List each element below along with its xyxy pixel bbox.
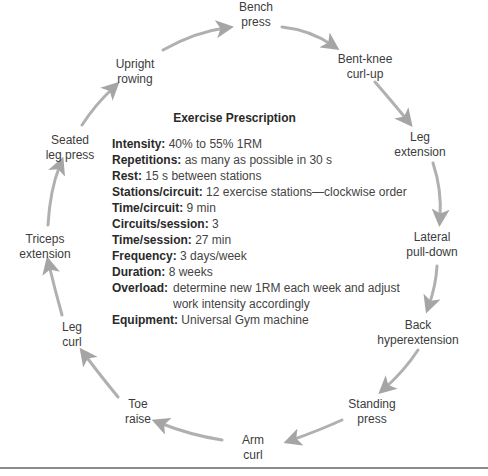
station-label: Arm [242,433,264,448]
row-label: Time/circuit: [112,201,183,215]
prescription-row-time-session: Time/session: 27 min [112,232,442,248]
station-toe-raise: Toe raise [125,397,151,427]
row-label: Time/session: [112,233,192,247]
station-label: Toe [125,397,151,412]
station-label: Upright [116,57,155,72]
station-label: raise [125,412,151,427]
station-label: press [239,15,273,30]
station-standing-press: Standing press [348,397,395,427]
station-leg-curl: Leg curl [62,320,82,350]
arrow-back-to-standing [385,350,418,388]
arrow-arm-to-toe [160,423,222,440]
prescription-row-duration: Duration: 8 weeks [112,264,442,280]
station-label: rowing [116,72,155,87]
station-label: Standing [348,397,395,412]
row-value: 8 weeks [169,265,213,279]
row-value: 15 s between stations [145,169,261,183]
station-label: press [348,412,395,427]
row-label: Repetitions: [112,153,181,167]
arrow-legcurl-to-triceps [49,265,62,315]
row-label: Circuits/session: [112,217,209,231]
prescription-row-circuits-session: Circuits/session: 3 [112,216,442,232]
arrow-toe-to-legcurl [85,355,118,397]
prescription-row-stations: Stations/circuit: 12 exercise stations—c… [112,184,442,200]
station-label: curl [242,448,264,463]
row-value: 3 [212,217,219,231]
prescription-row-time-circuit: Time/circuit: 9 min [112,200,442,216]
prescription-title: Exercise Prescription [112,111,357,125]
arrow-upright-to-bench [163,28,225,50]
prescription-row-intensity: Intensity: 40% to 55% 1RM [112,136,442,152]
row-label: Rest: [112,169,142,183]
station-seated-leg-press: Seated leg press [46,133,95,163]
station-label: Bent-knee [338,52,393,67]
prescription-row-overload: Overload:determine new 1RM each week and… [112,280,442,312]
station-label: hyperextension [377,333,458,348]
arrow-standing-to-arm [292,420,342,440]
row-value: 27 min [195,233,231,247]
station-upright-rowing: Upright rowing [116,57,155,87]
row-value: as many as possible in 30 s [185,153,332,167]
row-value: 12 exercise stations—clockwise order [206,185,407,199]
prescription-row-frequency: Frequency: 3 days/week [112,248,442,264]
row-label: Intensity: [112,137,165,151]
prescription-row-repetitions: Repetitions: as many as possible in 30 s [112,152,442,168]
row-value: 3 days/week [180,249,247,263]
station-label: leg press [46,148,95,163]
station-label: Triceps [19,232,70,247]
station-label: extension [19,247,70,262]
row-value: 9 min [186,201,215,215]
arrow-triceps-to-seated [48,165,60,225]
exercise-prescription: Exercise Prescription Intensity: 40% to … [112,111,442,328]
station-bench-press: Bench press [239,0,273,30]
row-label: Duration: [112,265,165,279]
row-value: 40% to 55% 1RM [169,137,262,151]
station-arm-curl: Arm curl [242,433,264,463]
station-label: curl [62,335,82,350]
station-label: Leg [62,320,82,335]
station-label: Seated [46,133,95,148]
arrow-seated-to-upright [82,88,113,125]
prescription-row-equipment: Equipment: Universal Gym machine [112,312,442,328]
row-label: Frequency: [112,249,177,263]
arrow-bench-to-bentknee [282,27,332,45]
row-label: Equipment: [112,313,178,327]
row-value: determine new 1RM each week and adjust w… [168,280,413,312]
station-triceps-extension: Triceps extension [19,232,70,262]
prescription-row-rest: Rest: 15 s between stations [112,168,442,184]
row-value: Universal Gym machine [181,313,308,327]
row-label: Stations/circuit: [112,185,203,199]
station-label: Bench [239,0,273,15]
station-bent-knee-curl-up: Bent-knee curl-up [338,52,393,82]
bottom-divider [0,467,488,469]
station-label: curl-up [338,67,393,82]
row-label: Overload: [112,280,168,312]
